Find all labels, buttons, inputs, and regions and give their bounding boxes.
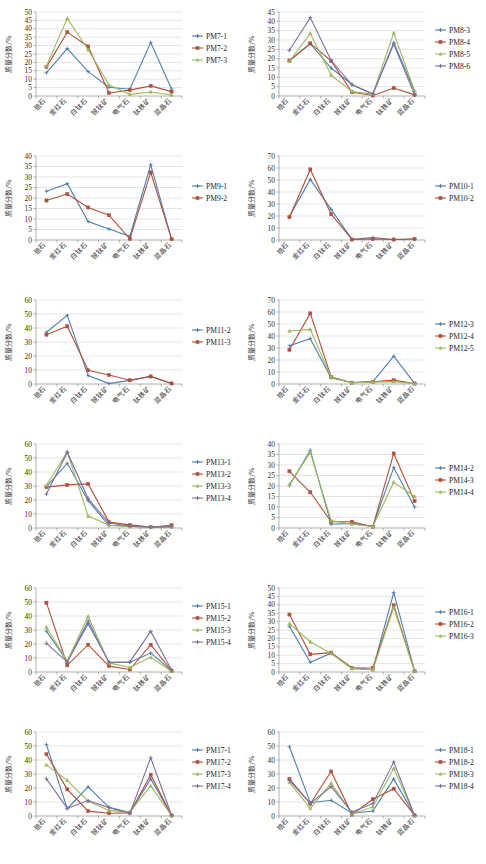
y-tick-label: 30	[25, 41, 33, 50]
y-axis-title: 质量分数/%	[247, 323, 256, 360]
legend-label: PM7-2	[206, 44, 227, 53]
legend-item-pm18-2[interactable]: PM18-2	[435, 758, 474, 767]
legend-item-pm18-3[interactable]: PM18-3	[435, 770, 474, 779]
series-pm13-3	[45, 450, 174, 529]
legend-label: PM18-4	[449, 782, 474, 791]
legend-label: PM17-3	[206, 770, 231, 779]
legend-item-pm11-2[interactable]: PM11-2	[192, 326, 231, 335]
y-axis-title: 质量分数/%	[4, 35, 13, 72]
y-axis-gridlines: 010203040506070	[268, 296, 425, 389]
x-axis-labels: 锆石金红石白钛石锐钛矿电气石钛铁矿蓝晶石	[275, 528, 416, 549]
x-tick-label: 锆石	[275, 528, 291, 544]
y-tick-label: 20	[25, 58, 33, 67]
legend-label: PM17-2	[206, 758, 231, 767]
y-tick-label: 10	[268, 368, 276, 377]
legend-item-pm15-4[interactable]: PM15-4	[192, 638, 231, 647]
legend-label: PM11-3	[206, 338, 231, 347]
legend-item-pm13-2[interactable]: PM13-2	[192, 470, 231, 479]
legend-item-pm16-1[interactable]: PM16-1	[435, 608, 474, 617]
legend-label: PM13-4	[206, 494, 231, 503]
legend-item-pm16-3[interactable]: PM16-3	[435, 632, 474, 641]
legend-item-pm14-4[interactable]: PM14-4	[435, 488, 474, 497]
legend-item-pm17-2[interactable]: PM17-2	[192, 758, 231, 767]
legend-item-pm10-1[interactable]: PM10-1	[435, 182, 474, 191]
legend-item-pm13-4[interactable]: PM13-4	[192, 494, 231, 503]
legend-label: PM14-4	[449, 488, 474, 497]
legend-label: PM7-1	[206, 32, 227, 41]
y-axis-gridlines: 0510152025303540	[268, 440, 425, 533]
y-tick-label: 0	[271, 524, 275, 533]
legend-label: PM15-1	[206, 602, 231, 611]
series-pm18-4	[287, 760, 416, 817]
legend-item-pm15-3[interactable]: PM15-3	[192, 626, 231, 635]
y-tick-label: 50	[25, 454, 33, 463]
y-tick-label: 10	[25, 798, 33, 807]
chart-axes	[279, 300, 425, 387]
x-tick-label: 蓝晶石	[152, 240, 173, 261]
legend-item-pm7-3[interactable]: PM7-3	[192, 56, 227, 65]
y-axis-gridlines: 05101520253035404550	[25, 8, 182, 101]
y-tick-label: 15	[268, 642, 276, 651]
series-pm7-3	[45, 16, 174, 96]
chart-panel-pm13: 0102030405060质量分数/%锆石金红石白钛石锐钛矿电气石钛铁矿蓝晶石P…	[0, 432, 243, 576]
x-tick-label: 钛铁矿	[374, 672, 395, 693]
legend-item-pm11-3[interactable]: PM11-3	[192, 338, 231, 347]
legend-item-pm9-2[interactable]: PM9-2	[192, 194, 227, 203]
legend-item-pm15-2[interactable]: PM15-2	[192, 614, 231, 623]
legend-item-pm12-5[interactable]: PM12-5	[435, 344, 474, 353]
y-axis-title: 质量分数/%	[4, 179, 13, 216]
y-axis-title: 质量分数/%	[4, 611, 13, 648]
legend-item-pm13-1[interactable]: PM13-1	[192, 458, 231, 467]
legend-item-pm16-2[interactable]: PM16-2	[435, 620, 474, 629]
y-tick-label: 15	[268, 64, 276, 73]
legend-item-pm15-1[interactable]: PM15-1	[192, 602, 231, 611]
legend-item-pm18-1[interactable]: PM18-1	[435, 746, 474, 755]
x-tick-label: 锆石	[275, 384, 291, 400]
x-tick-label: 蓝晶石	[395, 384, 416, 405]
legend-item-pm17-1[interactable]: PM17-1	[192, 746, 231, 755]
x-tick-label: 钛铁矿	[374, 384, 395, 405]
y-tick-label: 35	[268, 450, 276, 459]
y-tick-label: 0	[271, 668, 275, 677]
legend-item-pm17-3[interactable]: PM17-3	[192, 770, 231, 779]
x-tick-label: 白钛石	[68, 528, 89, 549]
legend-label: PM16-2	[449, 620, 474, 629]
legend-item-pm17-4[interactable]: PM17-4	[192, 782, 231, 791]
x-tick-label: 电气石	[353, 816, 374, 837]
legend-item-pm7-2[interactable]: PM7-2	[192, 44, 227, 53]
x-tick-label: 锐钛矿	[332, 816, 353, 837]
y-tick-label: 60	[25, 296, 33, 305]
legend-item-pm9-1[interactable]: PM9-1	[192, 182, 227, 191]
legend-item-pm8-4[interactable]: PM8-4	[435, 38, 470, 47]
y-tick-label: 15	[268, 492, 276, 501]
legend-item-pm18-4[interactable]: PM18-4	[435, 782, 474, 791]
x-tick-label: 金红石	[290, 240, 311, 261]
chart-legend: PM7-1PM7-2PM7-3	[192, 32, 227, 65]
legend-item-pm10-2[interactable]: PM10-2	[435, 194, 474, 203]
legend-item-pm7-1[interactable]: PM7-1	[192, 32, 227, 41]
y-tick-label: 50	[268, 320, 276, 329]
x-tick-label: 白钛石	[68, 384, 89, 405]
legend-item-pm12-4[interactable]: PM12-4	[435, 332, 474, 341]
y-tick-label: 20	[268, 54, 276, 63]
legend-item-pm14-2[interactable]: PM14-2	[435, 464, 474, 473]
x-tick-label: 锆石	[32, 816, 48, 832]
legend-item-pm8-5[interactable]: PM8-5	[435, 50, 470, 59]
y-tick-label: 40	[268, 600, 276, 609]
y-tick-label: 40	[25, 24, 33, 33]
legend-item-pm8-3[interactable]: PM8-3	[435, 26, 470, 35]
y-tick-label: 20	[268, 482, 276, 491]
chart-panel-pm15: 0102030405060质量分数/%锆石金红石白钛石锐钛矿电气石钛铁矿蓝晶石P…	[0, 576, 243, 720]
legend-item-pm12-3[interactable]: PM12-3	[435, 320, 474, 329]
legend-item-pm8-6[interactable]: PM8-6	[435, 62, 470, 71]
legend-item-pm14-3[interactable]: PM14-3	[435, 476, 474, 485]
chart-axes	[279, 156, 425, 243]
legend-label: PM8-4	[449, 38, 470, 47]
legend-label: PM8-3	[449, 26, 470, 35]
x-tick-label: 蓝晶石	[152, 384, 173, 405]
y-tick-label: 20	[268, 634, 276, 643]
x-tick-label: 钛铁矿	[131, 672, 152, 693]
x-tick-label: 钛铁矿	[131, 240, 152, 261]
chart-panel-pm16: 05101520253035404550质量分数/%锆石金红石白钛石锐钛矿电气石…	[243, 576, 486, 720]
legend-item-pm13-3[interactable]: PM13-3	[192, 482, 231, 491]
